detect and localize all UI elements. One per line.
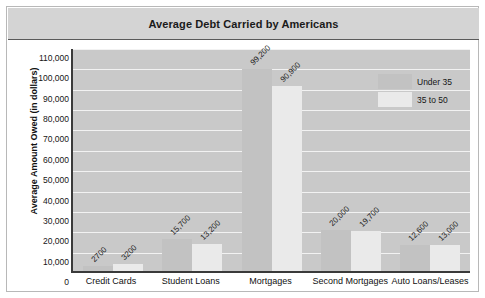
y-axis-tick: 40,000 [43, 196, 69, 206]
legend-swatch [378, 74, 412, 89]
legend-label: Under 35 [412, 77, 452, 87]
bar-slot: 15,700 [162, 49, 192, 271]
x-axis-tick: Mortgages [231, 276, 311, 286]
y-axis-tick: 30,000 [43, 216, 69, 226]
bar-slot: 90,900 [272, 49, 302, 271]
legend-swatch [378, 92, 412, 107]
bar-group: 27003200 [73, 49, 152, 271]
bar[interactable]: 13,200 [192, 244, 222, 271]
chart-legend: Under 3535 to 50 [378, 74, 474, 110]
bar-value-label: 19,700 [358, 205, 382, 229]
x-axis-tick: Student Loans [151, 276, 231, 286]
bar[interactable]: 3200 [113, 264, 143, 271]
bar-slot: 20,000 [321, 49, 351, 271]
y-axis-tick: 110,000 [39, 53, 69, 63]
y-axis-tick-labels: 010,00020,00030,00040,00050,00060,00070,… [25, 49, 69, 273]
chart-title-bar: Average Debt Carried by Americans [8, 8, 479, 40]
bar[interactable]: 90,900 [272, 86, 302, 271]
y-axis-tick: 0 [64, 277, 69, 287]
bar-slot: 13,200 [192, 49, 222, 271]
x-axis-tick: Auto Loans/Leases [390, 276, 470, 286]
y-axis-tick: 90,000 [43, 94, 69, 104]
bar-value-label: 20,000 [328, 205, 352, 229]
legend-item[interactable]: Under 35 [378, 74, 474, 89]
chart-title: Average Debt Carried by Americans [148, 18, 338, 30]
bar-value-label: 12,600 [407, 220, 431, 244]
y-axis-tick: 50,000 [43, 175, 69, 185]
y-axis-tick: 70,000 [43, 134, 69, 144]
y-axis-tick: 10,000 [43, 257, 69, 267]
bar-slot: 19,700 [351, 49, 381, 271]
legend-item[interactable]: 35 to 50 [378, 92, 474, 107]
bar-slot: 99,200 [242, 49, 272, 271]
bar-value-label: 90,900 [278, 60, 302, 84]
bar-value-label: 13,000 [437, 219, 461, 243]
x-axis-tick-labels: Credit CardsStudent LoansMortgagesSecond… [71, 276, 470, 286]
bar[interactable]: 13,000 [430, 245, 460, 271]
y-axis-tick: 80,000 [43, 114, 69, 124]
bar[interactable]: 2700 [83, 266, 113, 271]
legend-label: 35 to 50 [412, 95, 448, 105]
bar-value-label: 13,200 [199, 218, 223, 242]
x-axis-tick: Credit Cards [71, 276, 151, 286]
bar[interactable]: 12,600 [400, 245, 430, 271]
bar[interactable]: 19,700 [351, 231, 381, 271]
y-axis-tick: 100,000 [38, 73, 69, 83]
bar-group: 15,70013,200 [152, 49, 231, 271]
y-axis-tick: 20,000 [43, 236, 69, 246]
bar-value-label: 2700 [89, 245, 108, 264]
bar-value-label: 3200 [119, 244, 138, 263]
bar[interactable]: 20,000 [321, 230, 351, 271]
chart-container: Average Debt Carried by Americans Averag… [6, 6, 479, 292]
bar[interactable]: 15,700 [162, 239, 192, 271]
bar-group: 99,20090,900 [232, 49, 311, 271]
bar-value-label: 99,200 [248, 43, 272, 67]
bar[interactable]: 99,200 [242, 69, 272, 271]
chart-body: Average Amount Owed (in dollars) 010,000… [7, 40, 480, 292]
bar-value-label: 15,700 [169, 213, 193, 237]
bar-slot: 3200 [113, 49, 143, 271]
bar-slot: 2700 [83, 49, 113, 271]
x-axis-tick: Second Mortgages [310, 276, 390, 286]
y-axis-tick: 60,000 [43, 155, 69, 165]
